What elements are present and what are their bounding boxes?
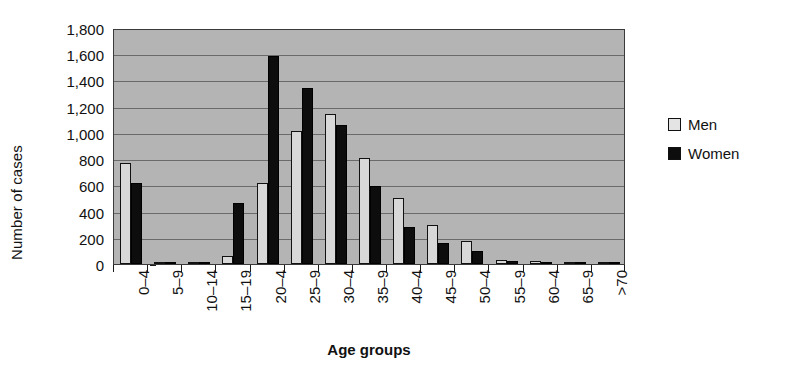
- bar-group: [114, 30, 148, 264]
- bar-men: [461, 241, 472, 264]
- y-tick-label: 600: [79, 179, 104, 194]
- bar-men: [291, 131, 302, 264]
- x-tick-label: 30–4: [341, 270, 356, 305]
- x-tick-label: 20–4: [273, 270, 288, 305]
- bar-women: [233, 203, 244, 264]
- y-tick-label: 0: [96, 258, 104, 273]
- x-axis-tick-labels: 0–45–910–1415–1920–425–930–435–940–445–9…: [113, 270, 625, 340]
- bar-group: [387, 30, 421, 264]
- bar-women: [268, 56, 279, 264]
- bar-men: [496, 260, 507, 264]
- women-swatch-icon: [668, 147, 681, 160]
- bar-women: [438, 243, 449, 264]
- bar-group: [182, 30, 216, 264]
- x-tick-label: 45–9: [443, 270, 458, 305]
- bar-women: [336, 125, 347, 264]
- bar-group: [285, 30, 319, 264]
- legend-item-men[interactable]: Men: [668, 117, 739, 132]
- bar-women: [609, 262, 620, 264]
- x-tick-label: 15–19: [238, 270, 253, 314]
- y-axis-tick-labels: 02004006008001,0001,2001,4001,6001,800: [44, 0, 112, 380]
- bar-group: [455, 30, 489, 264]
- bar-men: [120, 163, 131, 264]
- bar-group: [558, 30, 592, 264]
- bar-group: [489, 30, 523, 264]
- bar-group: [148, 30, 182, 264]
- bar-series-container: [114, 30, 624, 264]
- bar-women: [199, 262, 210, 264]
- legend-label-women: Women: [688, 146, 739, 161]
- x-tick-label: 25–9: [307, 270, 322, 305]
- x-tick-label: 35–9: [375, 270, 390, 305]
- x-tick-label: 0–4: [136, 270, 151, 297]
- bar-women: [507, 261, 518, 264]
- x-tick-label: 65–9: [580, 270, 595, 305]
- bar-group: [421, 30, 455, 264]
- x-tick-label: 5–9: [170, 270, 185, 297]
- y-tick-label: 800: [79, 153, 104, 168]
- y-axis-title: Number of cases: [8, 20, 30, 260]
- y-tick-label: 1,800: [66, 22, 104, 37]
- bar-group: [216, 30, 250, 264]
- plot-area: [113, 29, 625, 265]
- bar-men: [188, 262, 199, 264]
- bar-women: [370, 186, 381, 264]
- chart-legend: Men Women: [668, 117, 739, 161]
- bar-group: [592, 30, 626, 264]
- bar-men: [325, 114, 336, 264]
- legend-label-men: Men: [688, 117, 717, 132]
- y-tick-label: 400: [79, 205, 104, 220]
- x-tick-label: >70: [614, 270, 629, 297]
- bar-women: [472, 251, 483, 264]
- x-tick-label: 60–4: [546, 270, 561, 305]
- bar-women: [404, 227, 415, 264]
- bar-group: [353, 30, 387, 264]
- bar-men: [427, 225, 438, 264]
- bar-men: [393, 198, 404, 264]
- x-tick-label: 55–9: [512, 270, 527, 305]
- y-tick-label: 200: [79, 231, 104, 246]
- x-axis-title: Age groups: [113, 341, 625, 358]
- y-tick-label: 1,400: [66, 74, 104, 89]
- bar-men: [222, 256, 233, 264]
- bar-women: [541, 262, 552, 264]
- bar-women: [575, 262, 586, 264]
- x-tick-label: 10–14: [204, 270, 219, 314]
- bar-men: [598, 262, 609, 264]
- bar-women: [302, 88, 313, 264]
- bar-chart-figure: Number of cases 02004006008001,0001,2001…: [0, 0, 787, 380]
- y-tick-label: 1,600: [66, 48, 104, 63]
- men-swatch-icon: [668, 118, 681, 131]
- bar-men: [257, 183, 268, 264]
- x-tick-label: 50–4: [477, 270, 492, 305]
- bar-men: [564, 262, 575, 264]
- y-tick-label: 1,000: [66, 126, 104, 141]
- bar-men: [530, 261, 541, 264]
- bar-group: [319, 30, 353, 264]
- bar-men: [154, 262, 165, 264]
- bar-women: [165, 262, 176, 264]
- bar-group: [524, 30, 558, 264]
- x-tick-label: 40–4: [409, 270, 424, 305]
- bar-women: [131, 183, 142, 264]
- legend-item-women[interactable]: Women: [668, 146, 739, 161]
- bar-group: [251, 30, 285, 264]
- y-tick-label: 1,200: [66, 100, 104, 115]
- bar-men: [359, 158, 370, 264]
